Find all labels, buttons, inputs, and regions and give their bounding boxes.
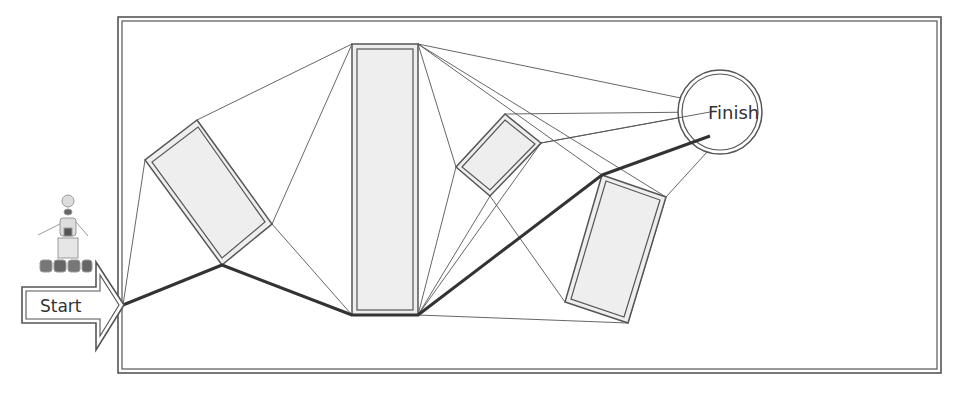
edge [272, 44, 352, 224]
obstacle-1 [145, 120, 272, 265]
finish-goal: Finish [678, 70, 762, 154]
edge [418, 315, 628, 323]
edge [418, 44, 710, 104]
edge [123, 160, 145, 305]
robot-icon [38, 195, 92, 272]
edge [418, 167, 456, 315]
edge [418, 44, 666, 197]
edge [418, 44, 456, 167]
obstacle-2 [352, 44, 418, 315]
edge [272, 224, 352, 315]
path-planning-diagram: Finish Start [0, 0, 954, 395]
obstacle-3 [456, 114, 541, 196]
start-label: Start [40, 296, 82, 316]
finish-label: Finish [708, 102, 759, 123]
start-arrow: Start [22, 262, 124, 350]
obstacle-4 [565, 175, 666, 323]
edge [418, 196, 490, 315]
edge [505, 112, 705, 114]
edge [197, 44, 352, 120]
